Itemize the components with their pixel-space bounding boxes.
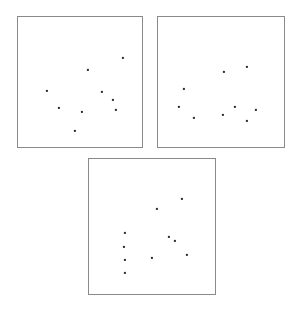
- data-point: [81, 111, 83, 113]
- panel-top-right: [157, 16, 285, 148]
- data-point: [101, 91, 103, 93]
- data-point: [74, 130, 76, 132]
- panel-bottom-center: [88, 158, 216, 295]
- data-point: [186, 254, 188, 256]
- data-point: [156, 208, 158, 210]
- data-point: [246, 120, 248, 122]
- data-point: [122, 57, 124, 59]
- data-point: [124, 272, 126, 274]
- data-point: [87, 69, 89, 71]
- scatter-panels-figure: [0, 0, 300, 313]
- data-point: [124, 259, 126, 261]
- data-point: [193, 117, 195, 119]
- data-point: [234, 106, 236, 108]
- data-point: [123, 246, 125, 248]
- data-point: [168, 236, 170, 238]
- data-point: [183, 88, 185, 90]
- data-point: [174, 240, 176, 242]
- data-point: [151, 257, 153, 259]
- data-point: [255, 109, 257, 111]
- data-point: [124, 232, 126, 234]
- data-point: [58, 107, 60, 109]
- data-point: [181, 198, 183, 200]
- data-point: [115, 109, 117, 111]
- data-point: [46, 90, 48, 92]
- data-point: [246, 66, 248, 68]
- data-point: [112, 99, 114, 101]
- data-point: [223, 71, 225, 73]
- data-point: [222, 114, 224, 116]
- data-point: [178, 106, 180, 108]
- panel-top-left: [17, 16, 143, 148]
